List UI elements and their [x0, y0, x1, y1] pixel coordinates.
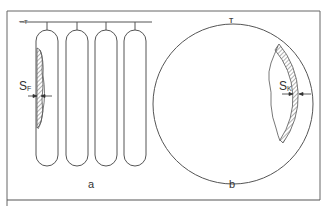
diagram-canvas: ꟷT T: [0, 0, 325, 206]
tube-array: [36, 22, 146, 166]
sf-label: SF: [19, 79, 31, 93]
caption-a: a: [88, 178, 94, 190]
tube-deposit: [37, 48, 45, 129]
vessel-top-marker: T: [229, 17, 234, 24]
pipe-end-marker: ꟷT: [19, 19, 28, 25]
caption-b: b: [229, 178, 235, 190]
figure-frame: [7, 11, 320, 206]
sk-label: SK: [279, 79, 292, 93]
sf-subscript: F: [27, 85, 31, 92]
sk-symbol: S: [279, 79, 287, 93]
header-pipe: ꟷT: [19, 19, 152, 25]
sf-symbol: S: [19, 79, 27, 93]
vessel-deposit: [269, 44, 298, 143]
sk-subscript: K: [287, 85, 292, 92]
vessel-circle: T: [153, 17, 313, 184]
